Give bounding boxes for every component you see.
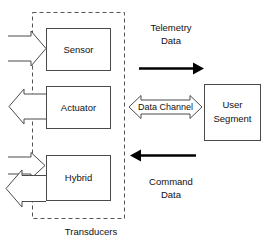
sensor-label: Sensor (63, 44, 93, 55)
hybrid-input-arrow (8, 153, 45, 179)
command-label-line2: Data (161, 189, 182, 200)
command-arrow (130, 150, 196, 162)
sensor-input-arrow (8, 31, 46, 66)
telemetry-label-line1: Telemetry (150, 22, 191, 33)
user-segment-label-line1: User (222, 99, 242, 110)
hybrid-output-arrow (6, 170, 46, 207)
actuator-label: Actuator (61, 102, 96, 113)
telemetry-label-line2: Data (161, 35, 182, 46)
diagram-canvas: Sensor Actuator Hybrid Data Channel User… (0, 0, 271, 245)
actuator-output-arrow (9, 89, 46, 124)
transducers-group-label: Transducers (65, 226, 118, 237)
data-channel-label: Data Channel (138, 102, 193, 112)
command-label-line1: Command (149, 176, 193, 187)
diagram-svg: Sensor Actuator Hybrid Data Channel User… (0, 0, 271, 245)
user-segment-label-line2: Segment (213, 113, 251, 124)
telemetry-arrow (139, 63, 204, 75)
hybrid-label: Hybrid (65, 172, 92, 183)
